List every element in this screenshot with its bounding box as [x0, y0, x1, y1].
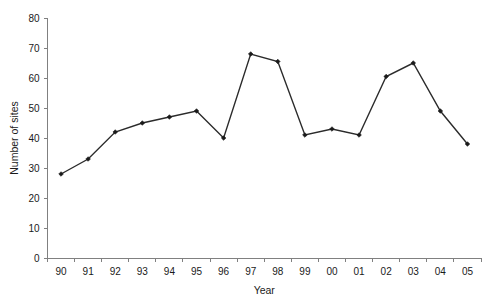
x-axis-tick-label: 01 — [354, 266, 366, 277]
data-point-marker — [140, 121, 145, 126]
x-axis-tick-label: 04 — [435, 266, 447, 277]
x-axis-title: Year — [254, 284, 276, 296]
data-point-marker — [303, 133, 308, 138]
data-point-marker — [384, 74, 389, 79]
y-axis-tick-label: 70 — [28, 43, 40, 54]
chart-canvas: 01020304050607080 9091929394959697989900… — [0, 0, 493, 306]
y-axis-tick-label: 0 — [34, 253, 40, 264]
y-axis-tick-label: 20 — [28, 193, 40, 204]
x-axis: 90919293949596979899000102030405 — [48, 258, 482, 277]
x-axis-tick-label: 91 — [83, 266, 95, 277]
x-axis-tick-label: 05 — [462, 266, 474, 277]
data-point-marker — [248, 52, 253, 57]
x-axis-tick-label: 02 — [381, 266, 393, 277]
x-axis-tick-label: 96 — [218, 266, 230, 277]
x-axis-tick-label: 99 — [299, 266, 311, 277]
x-axis-tick-label: 95 — [191, 266, 203, 277]
x-axis-tick-label: 98 — [272, 266, 284, 277]
y-axis-tick-label: 80 — [28, 13, 40, 24]
line-chart: 01020304050607080 9091929394959697989900… — [0, 0, 493, 306]
y-axis-tick-label: 10 — [28, 223, 40, 234]
y-axis-tick-label: 50 — [28, 103, 40, 114]
x-axis-tick-label: 93 — [137, 266, 149, 277]
y-axis-title: Number of sites — [8, 101, 20, 175]
x-axis-tick-label: 03 — [408, 266, 420, 277]
data-point-marker — [357, 133, 362, 138]
x-axis-tick-label: 97 — [245, 266, 257, 277]
series-line — [61, 54, 467, 174]
y-axis: 01020304050607080 — [28, 13, 47, 264]
x-axis-tick-label: 94 — [164, 266, 176, 277]
y-axis-tick-label: 60 — [28, 73, 40, 84]
data-series — [59, 52, 470, 177]
x-axis-tick-label: 92 — [110, 266, 122, 277]
x-axis-tick-label: 90 — [55, 266, 67, 277]
data-point-marker — [330, 127, 335, 132]
data-point-marker — [167, 115, 172, 120]
x-axis-tick-label: 00 — [326, 266, 338, 277]
data-point-marker — [275, 59, 280, 64]
y-axis-tick-label: 40 — [28, 133, 40, 144]
y-axis-tick-label: 30 — [28, 163, 40, 174]
